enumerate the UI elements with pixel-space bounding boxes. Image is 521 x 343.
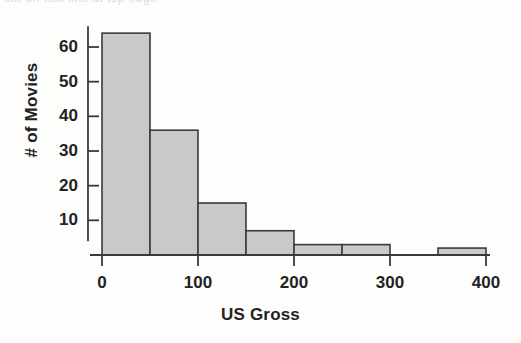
histogram-bar — [150, 130, 198, 255]
bar-series — [102, 33, 486, 255]
x-tick-label: 300 — [360, 274, 420, 291]
x-tick-label: 400 — [456, 274, 516, 291]
histogram-bar — [342, 245, 390, 255]
histogram-bar — [246, 231, 294, 255]
x-tick-label: 100 — [168, 274, 228, 291]
histogram-bar — [294, 245, 342, 255]
plot-area: 102030405060 0100200300400 # of Movies U… — [0, 0, 521, 343]
x-tick-label: 200 — [264, 274, 324, 291]
x-tick-label: 0 — [72, 274, 132, 291]
y-tick-label: 10 — [36, 211, 78, 228]
histogram-bar — [102, 33, 150, 255]
histogram-figure: cut-off text line at top edge 1020304050… — [0, 0, 521, 343]
y-tick-label: 30 — [36, 142, 78, 159]
y-tick-label: 40 — [36, 107, 78, 124]
y-axis-label: # of Movies — [22, 40, 42, 180]
y-tick-label: 20 — [36, 177, 78, 194]
chart-canvas — [0, 0, 521, 343]
histogram-bar — [438, 248, 486, 255]
histogram-bar — [198, 203, 246, 255]
x-axis-label: US Gross — [0, 305, 521, 325]
y-tick-label: 60 — [36, 38, 78, 55]
y-tick-label: 50 — [36, 73, 78, 90]
